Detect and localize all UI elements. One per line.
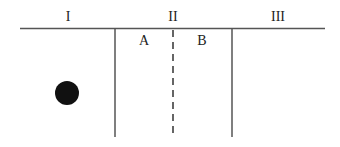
region-label-ii: II (168, 9, 178, 24)
region-label-iii: III (271, 9, 285, 24)
region-diagram: I II III A B (0, 0, 340, 147)
subregion-label-b: B (197, 33, 206, 48)
ball (55, 81, 79, 105)
region-label-i: I (66, 9, 71, 24)
subregion-label-a: A (139, 33, 150, 48)
